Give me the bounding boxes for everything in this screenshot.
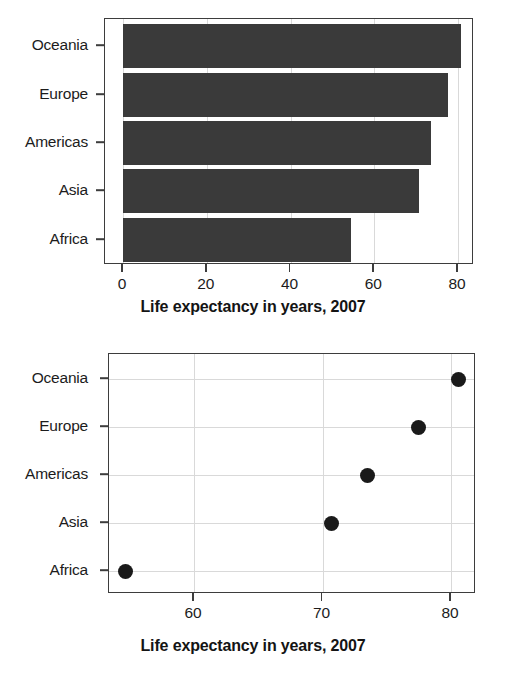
dot-plot-y-tick-label: Asia [59, 513, 88, 531]
bar-chart-x-axis-title: Life expectancy in years, 2007 [0, 298, 506, 316]
bar-chart-figure: OceaniaEuropeAmericasAsiaAfrica 02040608… [0, 0, 506, 340]
bar-chart-x-tick-mark [121, 264, 123, 272]
dot-plot-y-tick-label: Africa [50, 561, 88, 579]
dot-plot-y-tick-label: Europe [39, 417, 88, 435]
dot-plot-x-tick-mark [192, 593, 194, 601]
bar-chart-y-tick-mark [96, 141, 104, 143]
bar-chart-x-tick-mark [372, 264, 374, 272]
bar-chart-y-tick-label: Europe [39, 85, 88, 103]
bar-chart-y-tick-label: Africa [50, 230, 88, 248]
bar-chart-x-tick-label: 40 [281, 275, 298, 293]
dot-plot-y-tick-mark [100, 425, 108, 427]
bar-chart-x-tick-mark [456, 264, 458, 272]
point-oceania [451, 372, 466, 387]
point-americas [360, 468, 375, 483]
bar-chart-y-tick-mark [96, 238, 104, 240]
bar-chart-x-tick-label: 20 [197, 275, 214, 293]
bar-chart-x-tick-label: 60 [365, 275, 382, 293]
gridline-vertical [451, 354, 452, 592]
bar-chart-y-tick-label: Americas [25, 133, 88, 151]
bar-asia [123, 169, 419, 213]
dot-plot-y-axis-labels: OceaniaEuropeAmericasAsiaAfrica [0, 340, 88, 678]
gridline-horizontal [109, 379, 474, 380]
bar-chart-x-tick-label: 0 [118, 275, 127, 293]
dot-plot-y-tick-mark [100, 521, 108, 523]
point-asia [324, 516, 339, 531]
dot-plot-x-tick-label: 70 [313, 604, 330, 622]
gridline-horizontal [109, 523, 474, 524]
dot-plot-y-tick-label: Americas [25, 465, 88, 483]
bar-chart-x-tick-label: 80 [448, 275, 465, 293]
dot-plot-x-tick-mark [321, 593, 323, 601]
gridline-horizontal [109, 571, 474, 572]
dot-plot-y-tick-mark [100, 377, 108, 379]
bar-chart-y-tick-mark [96, 44, 104, 46]
dot-plot-x-tick-mark [449, 593, 451, 601]
bar-chart-y-tick-mark [96, 93, 104, 95]
bar-chart-y-axis-labels: OceaniaEuropeAmericasAsiaAfrica [0, 0, 88, 340]
dot-plot-y-tick-mark [100, 569, 108, 571]
gridline-vertical [194, 354, 195, 592]
bar-chart-plot-area [104, 18, 473, 264]
dot-plot-x-tick-label: 60 [184, 604, 201, 622]
bar-africa [123, 218, 351, 262]
bar-chart-y-tick-mark [96, 189, 104, 191]
gridline-vertical [323, 354, 324, 592]
bar-americas [123, 121, 431, 165]
gridline-horizontal [109, 475, 474, 476]
bar-chart-x-tick-mark [205, 264, 207, 272]
point-europe [411, 420, 426, 435]
dot-plot-x-tick-label: 80 [441, 604, 458, 622]
bar-oceania [123, 24, 461, 68]
bar-europe [123, 73, 448, 117]
dot-plot-plot-area [108, 353, 475, 593]
dot-plot-y-tick-mark [100, 473, 108, 475]
point-africa [118, 564, 133, 579]
bar-chart-y-tick-label: Asia [59, 181, 88, 199]
dot-plot-x-axis-title: Life expectancy in years, 2007 [0, 637, 506, 655]
bar-chart-y-tick-label: Oceania [32, 36, 88, 54]
bar-chart-x-tick-mark [289, 264, 291, 272]
dot-plot-y-tick-label: Oceania [32, 369, 88, 387]
